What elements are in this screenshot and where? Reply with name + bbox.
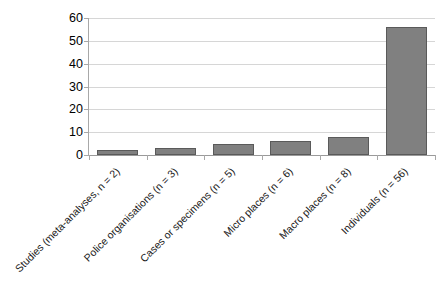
y-tick-label-60: 60 bbox=[19, 12, 83, 25]
x-tick-mark bbox=[377, 155, 378, 160]
x-tick-mark bbox=[435, 155, 436, 160]
y-tick-label-40: 40 bbox=[19, 58, 83, 71]
y-tick-label-20: 20 bbox=[19, 103, 83, 116]
x-tick-mark bbox=[320, 155, 321, 160]
bar bbox=[155, 148, 196, 155]
bar bbox=[97, 150, 138, 155]
x-tick-mark bbox=[147, 155, 148, 160]
y-tick-label-50: 50 bbox=[19, 35, 83, 48]
y-tick-label-0: 0 bbox=[19, 149, 83, 162]
y-tick-label-30: 30 bbox=[19, 81, 83, 94]
bar bbox=[270, 141, 311, 155]
y-tick-label-10: 10 bbox=[19, 126, 83, 139]
bar bbox=[386, 27, 427, 155]
bar-chart: 0102030405060 Studies (meta-analyses, n … bbox=[0, 0, 448, 286]
bars-layer bbox=[89, 18, 435, 155]
x-tick-mark bbox=[89, 155, 90, 160]
x-tick-mark bbox=[262, 155, 263, 160]
bar bbox=[328, 137, 369, 155]
bar bbox=[213, 144, 254, 155]
x-tick-mark bbox=[204, 155, 205, 160]
